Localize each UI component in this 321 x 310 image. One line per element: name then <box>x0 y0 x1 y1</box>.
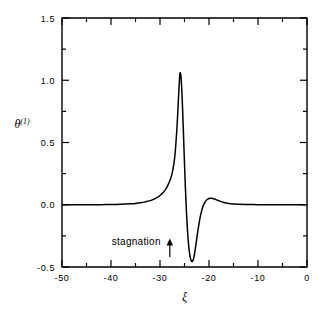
y-axis-label-superscript: (1) <box>20 116 30 125</box>
y-tick-label: 1.5 <box>41 14 55 24</box>
y-tick-label: -0.5 <box>37 263 55 273</box>
x-tick-label: -20 <box>202 273 217 283</box>
stagnation-label: stagnation <box>112 236 161 247</box>
line-chart: -50-40-30-20-100 1.51.00.50.0-0.5 stagna… <box>0 0 321 310</box>
x-tick-label: -40 <box>104 273 119 283</box>
figure-container: -50-40-30-20-100 1.51.00.50.0-0.5 stagna… <box>0 0 321 310</box>
y-tick-label: 0.5 <box>41 138 55 148</box>
x-tick-label: -30 <box>153 273 168 283</box>
y-tick-label: 1.0 <box>41 76 55 86</box>
x-tick-label: -50 <box>55 273 70 283</box>
x-tick-label: -10 <box>251 273 266 283</box>
x-axis-label: ξ <box>182 290 188 304</box>
y-tick-label: 0.0 <box>41 200 55 210</box>
x-tick-label: 0 <box>304 273 310 283</box>
